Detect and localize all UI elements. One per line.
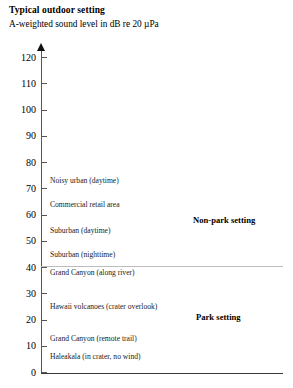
y-axis-tick-30 (42, 293, 47, 294)
y-axis-tick-label-40: 40 (0, 263, 36, 273)
annotation-label: Non-park setting (193, 215, 255, 225)
y-axis-tick-50 (42, 241, 47, 242)
y-axis-tick-label-110: 110 (0, 79, 36, 89)
y-axis-tick-label-20: 20 (0, 315, 36, 325)
y-axis-tick-label-90: 90 (0, 131, 36, 141)
y-axis-tick-label-0: 0 (0, 368, 36, 378)
y-axis-tick-label-100: 100 (0, 105, 36, 115)
y-axis-line (41, 50, 42, 373)
annotation-label: Park setting (196, 312, 241, 322)
data-label: Grand Canyon (along river) (50, 268, 135, 277)
y-axis-tick-110 (42, 83, 47, 84)
y-axis-tick-label-80: 80 (0, 158, 36, 168)
y-axis-tick-120 (42, 57, 47, 58)
y-axis-arrow-icon (37, 43, 45, 51)
data-label: Noisy urban (daytime) (50, 176, 119, 185)
data-label: Hawaii volcanoes (crater overlook) (50, 302, 157, 311)
reference-line-0db (41, 373, 283, 374)
y-axis-tick-10 (42, 346, 47, 347)
y-axis-tick-label-50: 50 (0, 236, 36, 246)
data-label: Haleakala (in crater, no wind) (50, 352, 141, 361)
y-axis-tick-90 (42, 136, 47, 137)
y-axis-tick-label-60: 60 (0, 210, 36, 220)
reference-line-40db (41, 266, 283, 267)
y-axis-tick-70 (42, 188, 47, 189)
data-label: Commercial retail area (50, 200, 120, 209)
y-axis-tick-label-70: 70 (0, 184, 36, 194)
y-axis-tick-label-120: 120 (0, 53, 36, 63)
y-axis-tick-label-10: 10 (0, 341, 36, 351)
y-axis-tick-20 (42, 320, 47, 321)
data-label: Suburban (daytime) (50, 226, 111, 235)
chart-plot-area: 1201101009080706050403020100 Noisy urban… (0, 0, 293, 388)
y-axis-tick-60 (42, 215, 47, 216)
data-label: Grand Canyon (remote trail) (50, 334, 137, 343)
y-axis-tick-100 (42, 110, 47, 111)
y-axis-tick-40 (42, 267, 47, 268)
y-axis-tick-label-30: 30 (0, 289, 36, 299)
data-label: Suburban (nighttime) (50, 250, 115, 259)
y-axis-tick-80 (42, 162, 47, 163)
